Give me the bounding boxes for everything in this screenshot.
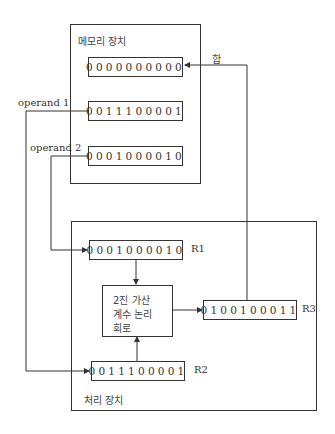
processing-unit-title: 처리 장치 xyxy=(84,392,123,407)
register-r3-label: R3 xyxy=(302,303,316,314)
memory-register-operand1: 0011100001 xyxy=(88,101,183,121)
register-r1-label: R1 xyxy=(191,243,205,254)
register-r2: 0011100001 xyxy=(91,361,185,381)
memory-unit-title: 메모리 장치 xyxy=(78,33,126,48)
alu-line-1: 2진 가산 xyxy=(113,294,172,308)
operand2-label: operand 2 xyxy=(30,142,81,153)
memory-register-sum: 0000000000 xyxy=(88,57,183,77)
memory-register-operand2: 0001000010 xyxy=(88,146,183,166)
register-r2-label: R2 xyxy=(194,364,208,375)
operand1-label: operand 1 xyxy=(18,97,69,108)
alu-line-3: 회로 xyxy=(113,322,172,336)
sum-label: 합 xyxy=(212,51,221,66)
register-r3: 0100100011 xyxy=(203,300,297,320)
binary-adder-logic-circuit: 2진 가산 계수 논리 회로 xyxy=(102,285,173,337)
alu-line-2: 계수 논리 xyxy=(113,308,172,322)
register-r1: 0001000010 xyxy=(89,240,183,260)
